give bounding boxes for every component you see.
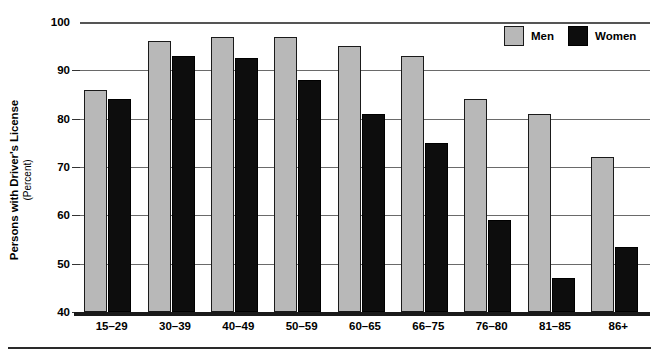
y-tick-mark-50 — [72, 264, 80, 265]
x-axis-tick-labels: 15–2930–3940–4950–5960–6566–7576–8081–85… — [80, 320, 650, 340]
legend-entry-men: Men — [504, 26, 554, 46]
bar-men-15–29 — [84, 90, 107, 312]
bar-group — [591, 22, 638, 312]
y-axis-title: Persons with Driver's License — [7, 100, 21, 260]
y-tick-label-100: 100 — [36, 16, 70, 28]
x-tick-label-66–75: 66–75 — [397, 320, 460, 332]
x-tick-label-50–59: 50–59 — [270, 320, 333, 332]
y-tick-mark-90 — [72, 70, 80, 71]
chart-legend: MenWomen — [504, 26, 636, 46]
bar-women-86+ — [615, 247, 638, 312]
bar-women-50–59 — [298, 80, 321, 312]
bar-group — [211, 22, 258, 312]
y-tick-label-60: 60 — [36, 209, 70, 221]
y-axis-title-block: Persons with Driver's License (Percent) — [0, 60, 40, 300]
bar-group — [528, 22, 575, 312]
legend-entry-women: Women — [568, 26, 636, 46]
x-axis-baseline — [74, 312, 650, 316]
bar-men-76–80 — [464, 99, 487, 312]
bar-women-81–85 — [552, 278, 575, 312]
bottom-divider — [8, 347, 651, 349]
bar-group — [464, 22, 511, 312]
bar-group — [401, 22, 448, 312]
men-swatch — [504, 26, 524, 46]
bar-men-40–49 — [211, 37, 234, 313]
y-tick-label-70: 70 — [36, 161, 70, 173]
legend-label-women: Women — [595, 30, 636, 42]
bar-men-50–59 — [274, 37, 297, 313]
plot-area — [80, 22, 650, 312]
y-tick-label-80: 80 — [36, 113, 70, 125]
bar-women-76–80 — [488, 220, 511, 312]
bar-men-66–75 — [401, 56, 424, 312]
x-tick-label-86+: 86+ — [587, 320, 650, 332]
y-tick-mark-60 — [72, 215, 80, 216]
x-tick-label-30–39: 30–39 — [143, 320, 206, 332]
legend-label-men: Men — [531, 30, 554, 42]
y-tick-mark-80 — [72, 119, 80, 120]
x-tick-label-60–65: 60–65 — [333, 320, 396, 332]
bar-women-66–75 — [425, 143, 448, 312]
x-tick-label-81–85: 81–85 — [523, 320, 586, 332]
women-swatch — [568, 26, 588, 46]
bar-women-60–65 — [362, 114, 385, 312]
bar-group — [148, 22, 195, 312]
y-axis-tick-labels: 100908070605040 — [36, 22, 70, 312]
y-tick-label-90: 90 — [36, 64, 70, 76]
driver-license-bar-chart: Persons with Driver's License (Percent) … — [0, 0, 659, 357]
bar-group — [274, 22, 321, 312]
bars-layer — [80, 22, 650, 312]
bar-men-81–85 — [528, 114, 551, 312]
y-tick-label-40: 40 — [36, 306, 70, 318]
y-tick-mark-70 — [72, 167, 80, 168]
bar-men-30–39 — [148, 41, 171, 312]
bar-women-30–39 — [172, 56, 195, 312]
x-tick-label-76–80: 76–80 — [460, 320, 523, 332]
bar-men-60–65 — [338, 46, 361, 312]
bar-men-86+ — [591, 157, 614, 312]
bar-group — [338, 22, 385, 312]
x-tick-label-40–49: 40–49 — [207, 320, 270, 332]
bar-women-15–29 — [108, 99, 131, 312]
y-tick-label-50: 50 — [36, 258, 70, 270]
bar-women-40–49 — [235, 58, 258, 312]
bar-group — [84, 22, 131, 312]
y-axis-subtitle: (Percent) — [21, 100, 34, 260]
x-tick-label-15–29: 15–29 — [80, 320, 143, 332]
